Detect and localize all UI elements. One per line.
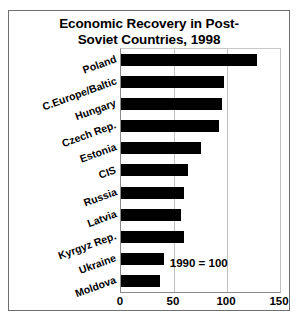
chart-frame: Economic Recovery in Post- Soviet Countr… [8, 10, 290, 311]
chart-title: Economic Recovery in Post- Soviet Countr… [9, 16, 289, 48]
bar-russia [121, 187, 184, 199]
bar-c-europe-baltic [121, 76, 224, 88]
bar-row [121, 71, 280, 93]
bar-hungary [121, 98, 222, 110]
bar-row [121, 93, 280, 115]
x-tick-label: 50 [167, 295, 180, 307]
bar-row [121, 181, 280, 203]
x-tick-label: 0 [117, 295, 123, 307]
category-label: Estonia [78, 142, 117, 165]
bar-moldova [121, 275, 160, 287]
bar-czech-rep [121, 120, 219, 132]
bar-row [121, 115, 280, 137]
category-label: Poland [81, 53, 118, 75]
bar-row [121, 270, 280, 292]
bar-estonia [121, 142, 201, 154]
bar-series [121, 49, 280, 292]
category-label: Moldova [74, 274, 118, 299]
bar-row [121, 49, 280, 71]
category-axis-labels: PolandC.Europe/BalticHungaryCzech Rep.Es… [9, 48, 116, 291]
bar-row [121, 137, 280, 159]
bar-cis [121, 164, 188, 176]
category-label: CIS [98, 164, 118, 180]
chart-annotation: 1990 = 100 [170, 257, 228, 269]
chart-title-line-1: Economic Recovery in Post- [9, 16, 289, 32]
bar-poland [121, 54, 257, 66]
bar-ukraine [121, 253, 164, 265]
gridline-150 [280, 49, 281, 292]
x-tick-label: 100 [216, 295, 235, 307]
chart-title-line-2: Soviet Countries, 1998 [9, 32, 289, 48]
category-label: Latvia [86, 208, 118, 229]
bar-kyrgyz-rep [121, 231, 184, 243]
bar-row [121, 226, 280, 248]
bar-row [121, 159, 280, 181]
bar-row [121, 204, 280, 226]
x-tick-label: 150 [269, 295, 288, 307]
bar-latvia [121, 209, 181, 221]
category-label: Ukraine [78, 252, 118, 276]
category-label: Russia [82, 186, 118, 208]
